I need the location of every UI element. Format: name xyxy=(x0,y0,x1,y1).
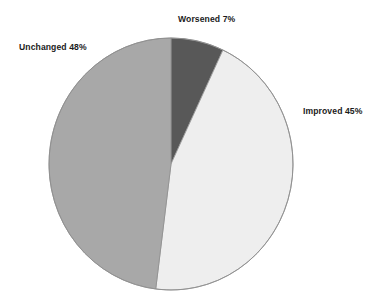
pie-slices xyxy=(49,38,293,290)
pie-chart-figure: Worsened 7% Unchanged 48% Improved 45% xyxy=(0,0,385,305)
pie-label-improved: Improved 45% xyxy=(303,107,362,116)
pie-slice-unchanged[interactable] xyxy=(49,38,171,289)
pie-label-worsened: Worsened 7% xyxy=(178,15,235,24)
pie-label-unchanged: Unchanged 48% xyxy=(19,43,87,52)
